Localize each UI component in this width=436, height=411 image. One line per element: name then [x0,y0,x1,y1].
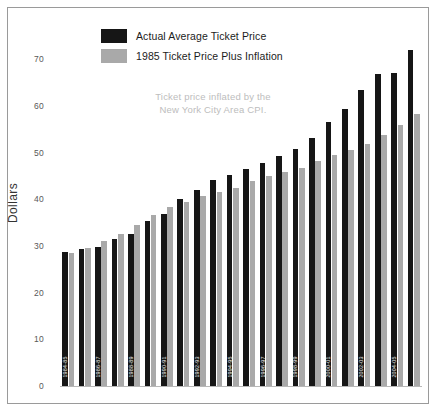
bar-group [309,36,321,386]
bar-inflation [282,172,288,386]
bar-inflation [101,241,107,386]
bar-actual [293,149,299,386]
bar-inflation [151,215,157,386]
bar-inflation [184,202,190,386]
bar-actual [309,138,315,386]
legend-label-inflation: 1985 Ticket Price Plus Inflation [136,50,283,62]
bar-actual [391,73,397,386]
y-tick-label: 10 [34,334,44,344]
legend-label-actual: Actual Average Ticket Price [136,30,266,42]
y-tick-label: 30 [34,241,44,251]
bar-inflation [217,192,223,386]
bar-group: 1990-91 [161,36,173,386]
ticket-price-bar-chart: 010203040506070 Dollars 1984-851986-8719… [0,0,436,411]
chart-legend: Actual Average Ticket Price 1985 Ticket … [101,28,283,68]
bar-group: 1988-89 [128,36,140,386]
bar-inflation [266,176,272,386]
bar-group: 2002-03 [358,36,370,386]
annotation-line-2: New York City Area CPI. [128,103,298,116]
bar-inflation [381,135,387,386]
bar-actual [408,50,414,386]
bar-inflation [69,253,75,386]
bar-group: 1984-85 [62,36,74,386]
bar-actual [276,156,282,386]
bar-group [210,36,222,386]
bar-group [243,36,255,386]
y-tick-label: 60 [34,101,44,111]
bar-group [408,36,420,386]
bar-inflation [348,150,354,386]
bar-group: 2000-01 [326,36,338,386]
y-tick-label: 20 [34,288,44,298]
bar-actual [79,249,85,386]
bar-group [79,36,91,386]
bar-actual [112,239,118,386]
bar-inflation [200,196,206,386]
bar-actual [227,175,233,386]
bar-inflation [398,125,404,386]
bar-actual [358,90,364,386]
bar-inflation [118,234,124,386]
bar-inflation [414,114,420,386]
bar-inflation [365,144,371,386]
bar-actual [210,180,216,386]
bar-actual [145,221,151,386]
bar-actual [194,190,200,386]
y-axis-title: Dollars [6,168,20,238]
legend-swatch-actual-icon [101,29,127,43]
legend-swatch-inflation-icon [101,49,127,63]
bar-actual [260,163,266,386]
y-tick-label: 40 [34,194,44,204]
chart-annotation: Ticket price inflated by the New York Ci… [128,90,298,116]
bar-inflation [233,188,239,386]
bar-group: 1996-97 [260,36,272,386]
bar-group: 2004-05 [391,36,403,386]
y-tick-label: 0 [39,381,44,391]
bar-actual [243,169,249,386]
bar-actual [95,247,101,386]
bar-group: 1998-99 [293,36,305,386]
bar-group [342,36,354,386]
bar-group [276,36,288,386]
bar-inflation [167,207,173,386]
legend-item-inflation: 1985 Ticket Price Plus Inflation [101,48,283,63]
bar-actual [177,199,183,386]
bar-inflation [85,248,91,386]
bar-group [375,36,387,386]
bar-group [177,36,189,386]
plot-area: 1984-851986-871988-891990-911992-931994-… [60,36,422,386]
bar-group: 1994-95 [227,36,239,386]
legend-item-actual: Actual Average Ticket Price [101,28,283,43]
bar-group: 1992-93 [194,36,206,386]
bar-actual [161,214,167,386]
bar-inflation [299,168,305,386]
bar-actual [326,122,332,386]
x-axis-baseline [60,386,422,387]
bar-inflation [332,155,338,386]
annotation-line-1: Ticket price inflated by the [128,90,298,103]
bar-group: 1986-87 [95,36,107,386]
bar-group [112,36,124,386]
bar-actual [62,252,68,386]
bar-inflation [134,225,140,386]
bar-group [145,36,157,386]
bar-actual [342,109,348,386]
bar-inflation [250,181,256,386]
y-tick-label: 50 [34,148,44,158]
bar-actual [128,234,134,386]
y-tick-label: 70 [34,54,44,64]
bar-inflation [315,161,321,386]
bar-actual [375,74,381,386]
